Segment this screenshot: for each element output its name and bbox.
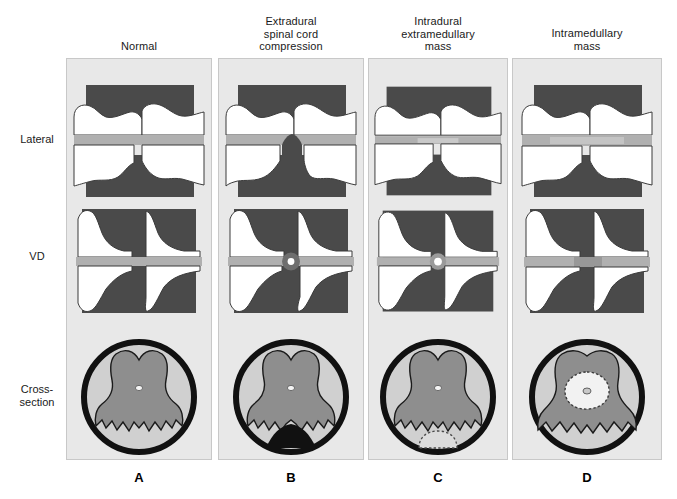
panel-a[interactable] (66, 58, 212, 460)
central-canal (583, 388, 591, 394)
intradural-mass-vd-center (434, 258, 442, 266)
panel-c-vd (369, 207, 507, 319)
intradural-mass-lateral (418, 138, 459, 143)
panel-b-cross-section (219, 336, 363, 458)
panel-letter-d: D (512, 470, 662, 485)
panel-c-lateral (369, 81, 507, 201)
panel-c[interactable] (368, 58, 508, 460)
extradural-mass-vd-center (288, 258, 295, 265)
intramedullary-mass-vd (574, 257, 602, 267)
intramedullary-mass-lateral (550, 137, 624, 144)
panel-a-cross-section (67, 336, 211, 458)
column-header-a: Normal (66, 40, 212, 53)
central-canal (434, 385, 441, 390)
panel-letter-a: A (66, 470, 212, 485)
contrast-column-vd (76, 257, 202, 266)
column-header-b-line-1: Extradural (218, 15, 364, 28)
lateral-view-extradural (224, 81, 358, 201)
myelography-figure: Normal Extradural spinal cord compressio… (0, 0, 677, 499)
panel-d-vd (513, 207, 661, 319)
cross-section-intramedullary (524, 336, 650, 458)
panel-letter-b: B (218, 470, 364, 485)
row-label-vd: VD (2, 250, 72, 263)
column-header-d-line-1: Intramedullary (512, 27, 662, 40)
panel-d-cross-section (513, 336, 661, 458)
column-header-b-line-3: compression (218, 40, 364, 53)
cross-section-normal (76, 336, 202, 458)
cross-section-intradural (375, 336, 501, 458)
panel-b-lateral (219, 81, 363, 201)
contrast-column-lateral (74, 135, 204, 145)
column-header-c-line-3: mass (368, 40, 508, 53)
central-canal (135, 385, 142, 390)
panel-c-cross-section (369, 336, 507, 458)
panel-d[interactable] (512, 58, 662, 460)
column-header-c-line-1: Intradural (368, 15, 508, 28)
extradural-mass-lateral (282, 134, 302, 173)
panel-a-lateral (67, 81, 211, 201)
central-canal (287, 385, 294, 390)
panel-d-lateral (513, 81, 661, 201)
column-header-c-line-2: extramedullary (368, 28, 508, 41)
row-label-vd-text: VD (2, 250, 72, 263)
row-label-lateral-text: Lateral (2, 133, 72, 146)
column-header-d-line-2: mass (512, 40, 662, 53)
vd-view-extradural (224, 207, 358, 319)
panel-b-vd (219, 207, 363, 319)
column-header-b-line-2: spinal cord (218, 28, 364, 41)
vd-view-intradural (373, 207, 503, 319)
column-header-b: Extradural spinal cord compression (218, 15, 364, 53)
panel-letter-c: C (368, 470, 508, 485)
panel-b[interactable] (218, 58, 364, 460)
vd-view-normal (72, 207, 206, 319)
row-label-cross-section: Cross- section (2, 383, 72, 408)
lateral-view-intramedullary (520, 81, 654, 201)
lateral-view-intradural (373, 81, 503, 201)
lateral-view-normal (72, 81, 206, 201)
vd-view-intramedullary (520, 207, 654, 319)
row-label-cross-section-text: Cross- section (2, 383, 72, 408)
column-header-c: Intradural extramedullary mass (368, 15, 508, 53)
column-header-a-line-1: Normal (66, 40, 212, 53)
column-header-d: Intramedullary mass (512, 27, 662, 52)
panel-a-vd (67, 207, 211, 319)
row-label-lateral: Lateral (2, 133, 72, 146)
cross-section-extradural (228, 336, 354, 458)
